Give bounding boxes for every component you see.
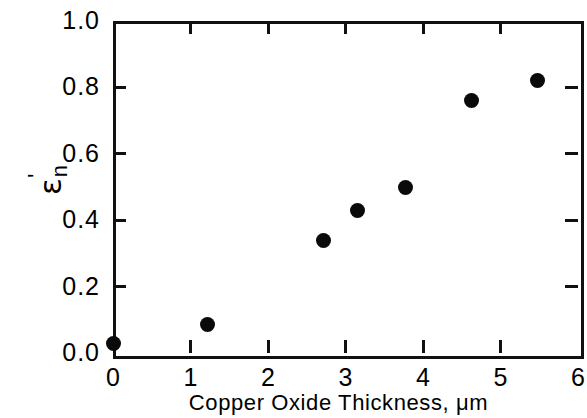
data-point [350, 203, 365, 218]
y-axis-tick-label: 0.0 [10, 340, 100, 365]
x-axis-tick-label: 0 [93, 365, 133, 390]
y-axis-tick-label: 0.8 [10, 74, 100, 99]
x-axis-tick-label: 4 [403, 365, 443, 390]
y-axis-title: ε'n [22, 120, 82, 240]
x-axis-tick-label: 1 [171, 365, 211, 390]
x-axis-tick [344, 340, 347, 353]
x-axis-tick [189, 340, 192, 353]
epsilon-symbol: ε [32, 178, 68, 195]
y-axis-tick-right [565, 219, 578, 222]
x-axis-tick-top [267, 21, 270, 34]
y-axis-tick-label: 0.2 [10, 274, 100, 299]
data-point [106, 336, 121, 351]
x-axis-tick-top [422, 21, 425, 34]
x-axis-tick-top [189, 21, 192, 34]
y-axis-tick [113, 285, 126, 288]
x-axis-tick-label: 3 [326, 365, 366, 390]
x-axis-tick-top [344, 21, 347, 34]
x-axis-tick [267, 340, 270, 353]
y-axis-title-text: ε'n [32, 165, 73, 195]
data-point [464, 93, 479, 108]
data-point [398, 180, 413, 195]
data-point [200, 317, 215, 332]
y-axis-tick-label: 1.0 [10, 8, 100, 33]
y-axis-tick [113, 86, 126, 89]
x-axis-tick [422, 340, 425, 353]
x-axis-tick-label: 6 [558, 365, 587, 390]
y-axis-tick [113, 152, 126, 155]
data-point [530, 73, 545, 88]
x-axis-title: Copper Oxide Thickness, μm [0, 390, 587, 416]
y-axis-tick-right [565, 86, 578, 89]
x-axis-tick [499, 340, 502, 353]
y-axis-tick-right [565, 285, 578, 288]
scatter-chart-figure: 0.00.20.40.60.81.0 0123456 ε'n Copper Ox… [0, 0, 587, 418]
x-axis-title-text: Copper Oxide Thickness, μm [189, 390, 488, 415]
y-axis-tick [113, 219, 126, 222]
data-point [316, 233, 331, 248]
plot-area [113, 21, 578, 353]
x-axis-tick-top [499, 21, 502, 34]
x-axis-tick-label: 2 [248, 365, 288, 390]
y-axis-tick-right [565, 152, 578, 155]
x-axis-tick-label: 5 [481, 365, 521, 390]
prime-symbol: ' [23, 173, 51, 178]
